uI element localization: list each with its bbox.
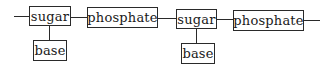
connector-phosphate2-end [303, 20, 320, 21]
base-node: base [33, 40, 67, 61]
base-node: base [181, 43, 215, 64]
connector-sugar2-phosphate2 [216, 19, 234, 20]
connector-sugar1-phosphate1 [70, 17, 88, 18]
sugar-node: sugar [176, 9, 217, 29]
phosphate-node: phosphate [87, 7, 158, 28]
connector-phosphate1-sugar2 [157, 18, 177, 19]
connector-sugar1-base1 [49, 25, 50, 41]
phosphate-node: phosphate [233, 10, 304, 31]
connector-start-sugar1 [14, 16, 30, 17]
connector-sugar2-base2 [196, 28, 197, 44]
dna-backbone-diagram: sugar base phosphate sugar base phosphat… [0, 0, 334, 67]
sugar-node: sugar [29, 6, 71, 26]
